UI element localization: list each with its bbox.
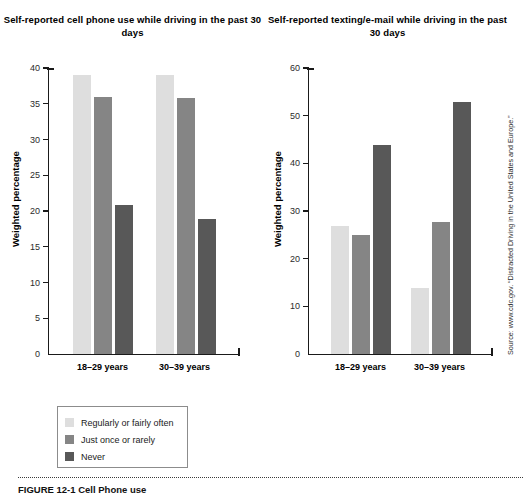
- y-tick-label-right-20: 20: [290, 254, 300, 264]
- bar-left-g1-2: [198, 219, 216, 354]
- legend-item-2: Never: [65, 448, 187, 465]
- y-tick-label-left-20: 20: [30, 206, 40, 216]
- bar-right-g0-0: [331, 226, 349, 354]
- legend-label-2: Never: [81, 452, 105, 462]
- source-note: Source: www.cdc.gov. “Distracted Driving…: [506, 115, 515, 355]
- chart-legend: Regularly or fairly oftenJust once or ra…: [57, 406, 188, 468]
- y-tick-label-right-60: 60: [290, 63, 300, 73]
- y-tick-right-50: [303, 115, 309, 116]
- y-tick-left-30: [43, 139, 49, 140]
- bar-right-g0-1: [352, 235, 370, 354]
- y-tick-label-left-5: 5: [35, 313, 40, 323]
- legend-swatch-icon-2: [65, 452, 74, 461]
- y-tick-right-60: [303, 67, 309, 68]
- y-tick-label-left-30: 30: [30, 135, 40, 145]
- x-axis-label-right-group-0: 18–29 years: [315, 362, 405, 372]
- bar-right-g1-0: [411, 288, 429, 354]
- legend-item-0: Regularly or fairly often: [65, 414, 187, 431]
- y-tick-left-10: [43, 282, 49, 283]
- y-tick-label-right-10: 10: [290, 301, 300, 311]
- y-tick-label-left-25: 25: [30, 170, 40, 180]
- y-tick-label-left-40: 40: [30, 63, 40, 73]
- y-tick-label-right-0: 0: [295, 349, 300, 359]
- chart-title-right: Self-reported texting/e-mail while drivi…: [265, 14, 510, 39]
- x-axis-label-left-group-0: 18–29 years: [57, 362, 147, 372]
- figure-container: Self-reported cell phone use while drivi…: [0, 0, 529, 493]
- plot-area-left: 0510152025303540: [48, 68, 240, 355]
- bar-left-g1-1: [177, 98, 195, 354]
- y-tick-right-40: [303, 163, 309, 164]
- legend-swatch-icon-0: [65, 418, 74, 427]
- y-tick-right-10: [303, 306, 309, 307]
- y-tick-left-20: [43, 210, 49, 211]
- y-axis-label-left: Weighted percentage: [10, 151, 21, 247]
- y-tick-left-15: [43, 246, 49, 247]
- bar-right-g1-2: [453, 102, 471, 354]
- legend-label-0: Regularly or fairly often: [81, 418, 174, 428]
- y-tick-left-5: [43, 318, 49, 319]
- bar-right-g1-1: [432, 222, 450, 355]
- y-tick-left-35: [43, 103, 49, 104]
- y-tick-left-40: [43, 67, 49, 68]
- y-tick-label-left-15: 15: [30, 242, 40, 252]
- bar-left-g1-0: [156, 75, 174, 354]
- bar-left-g0-1: [94, 97, 112, 354]
- bar-right-g0-2: [373, 145, 391, 354]
- bar-left-g0-0: [73, 75, 91, 354]
- x-axis-right-cap-left: [238, 348, 240, 356]
- y-axis-label-right: Weighted percentage: [272, 151, 283, 247]
- y-tick-label-left-0: 0: [35, 349, 40, 359]
- x-axis-right-cap-right: [491, 348, 493, 356]
- y-tick-right-30: [303, 210, 309, 211]
- y-tick-label-right-50: 50: [290, 111, 300, 121]
- y-tick-left-25: [43, 175, 49, 176]
- chart-panel-cell-phone-use: Self-reported cell phone use while drivi…: [0, 0, 265, 400]
- chart-title-left: Self-reported cell phone use while drivi…: [0, 14, 265, 39]
- y-tick-right-20: [303, 258, 309, 259]
- y-tick-label-right-30: 30: [290, 206, 300, 216]
- figure-caption: FIGURE 12-1 Cell Phone use: [18, 484, 523, 493]
- x-axis-label-left-group-1: 30–39 years: [140, 362, 230, 372]
- footer-divider: [18, 477, 523, 478]
- legend-item-1: Just once or rarely: [65, 431, 187, 448]
- legend-label-1: Just once or rarely: [81, 435, 155, 445]
- y-tick-label-left-10: 10: [30, 278, 40, 288]
- bar-left-g0-2: [115, 205, 133, 354]
- plot-area-right: 0102030405060: [308, 68, 493, 355]
- y-tick-label-right-40: 40: [290, 158, 300, 168]
- y-tick-label-left-35: 35: [30, 99, 40, 109]
- x-axis-label-right-group-1: 30–39 years: [395, 362, 485, 372]
- legend-swatch-icon-1: [65, 435, 74, 444]
